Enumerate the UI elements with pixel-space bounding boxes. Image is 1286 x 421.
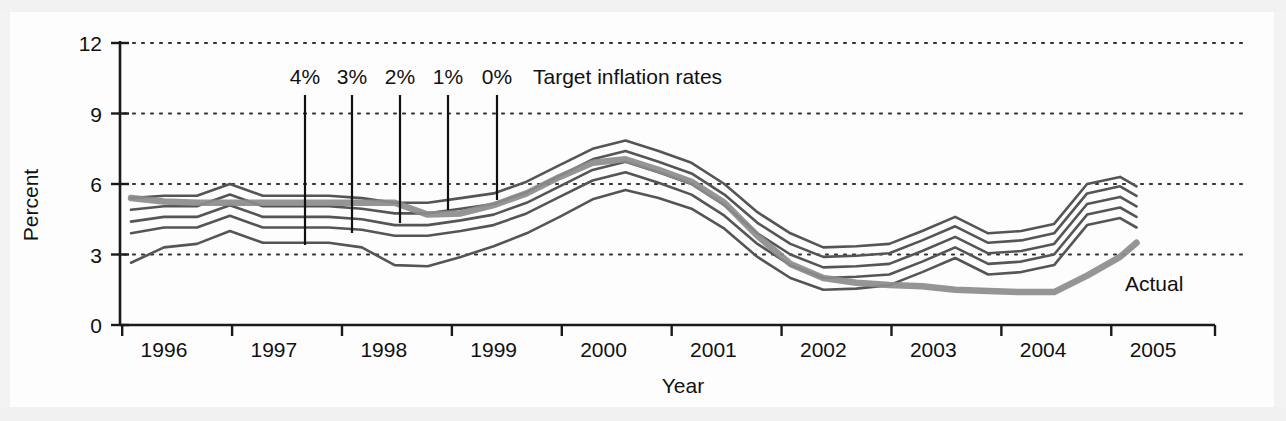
y-axis-title: Percent: [19, 169, 42, 242]
chart-figure: 036912Percent199619971998199920002001200…: [0, 0, 1286, 421]
target-pointer-label-0pct: 0%: [482, 65, 512, 88]
x-tick-label-2000: 2000: [580, 338, 627, 361]
y-tick-label-0: 0: [90, 314, 102, 337]
x-tick-label-2002: 2002: [800, 338, 847, 361]
x-tick-label-1998: 1998: [360, 338, 407, 361]
x-tick-label-2003: 2003: [910, 338, 957, 361]
target-pointer-label-2pct: 2%: [385, 65, 415, 88]
x-axis-title: Year: [662, 374, 704, 397]
series-line-target-2-: [131, 162, 1137, 268]
y-tick-label-6: 6: [90, 173, 102, 196]
target-pointer-label-1pct: 1%: [433, 65, 463, 88]
y-tick-label-9: 9: [90, 103, 102, 126]
x-tick-label-1997: 1997: [250, 338, 297, 361]
series-line-target-0-: [131, 141, 1137, 248]
series-line-target-3-: [131, 172, 1137, 278]
label-layer: Target inflation ratesActual: [533, 65, 1183, 295]
target-pointer-label-4pct: 4%: [290, 65, 320, 88]
x-tick-label-1999: 1999: [470, 338, 517, 361]
series-layer: [131, 141, 1137, 293]
actual-series-annotation: Actual: [1125, 272, 1183, 295]
inflation-target-chart: 036912Percent199619971998199920002001200…: [0, 0, 1286, 421]
y-tick-label-3: 3: [90, 244, 102, 267]
x-tick-label-2004: 2004: [1020, 338, 1067, 361]
target-rates-annotation: Target inflation rates: [533, 65, 722, 88]
target-pointer-label-3pct: 3%: [337, 65, 367, 88]
x-tick-label-2005: 2005: [1130, 338, 1177, 361]
x-tick-label-1996: 1996: [141, 338, 188, 361]
x-tick-label-2001: 2001: [690, 338, 737, 361]
y-tick-label-12: 12: [79, 32, 102, 55]
